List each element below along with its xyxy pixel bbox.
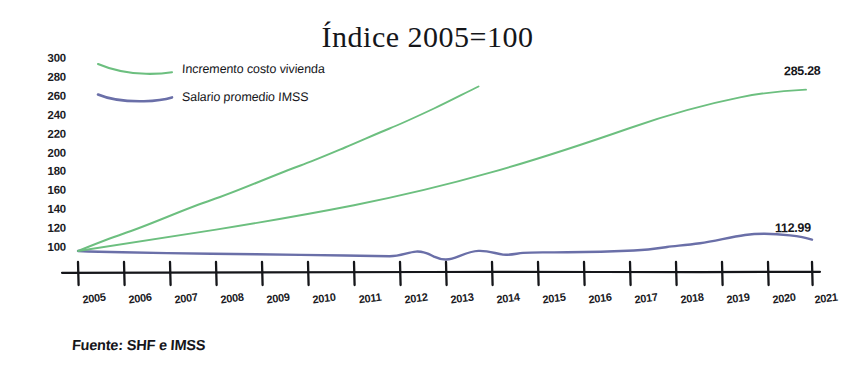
x-axis-tick-label: 2015 <box>542 291 567 306</box>
x-axis-tick-label: 2019 <box>726 291 751 306</box>
source-note: Fuente: SHF e IMSS <box>71 337 205 353</box>
x-axis-tick-label: 2021 <box>814 291 839 306</box>
x-axis-line <box>62 272 820 273</box>
x-axis-tick-label: 2011 <box>358 291 382 306</box>
x-axis-tick-label: 2007 <box>174 291 199 306</box>
series-line-incremento-costo-vivienda <box>78 87 479 252</box>
x-axis-tick-label: 2008 <box>220 291 245 306</box>
data-label-green-endpoint: 285.28 <box>784 64 821 79</box>
x-axis-tick-label: 2018 <box>680 291 705 306</box>
x-axis-tick-label: 2014 <box>496 291 521 306</box>
x-axis-tick-label: 2009 <box>266 291 291 306</box>
x-axis-tick-label: 2017 <box>634 291 659 306</box>
x-axis-tick-label: 2012 <box>404 291 429 306</box>
x-axis-tick-label: 2016 <box>588 291 613 306</box>
x-axis-tick-label: 2013 <box>450 291 475 306</box>
data-label-blue-endpoint: 112.99 <box>775 221 811 236</box>
x-axis-tick-label: 2010 <box>312 291 337 306</box>
x-axis-tick-label: 2005 <box>82 291 107 306</box>
x-axis-labels: 2005 2006 2007 2008 2009 2010 2011 2012 … <box>0 292 855 322</box>
x-axis-tick-label: 2020 <box>772 291 797 306</box>
x-axis-tick-label: 2006 <box>128 291 153 306</box>
chart-container: Índice 2005=100 300 280 260 240 220 200 … <box>0 0 855 376</box>
series-line-salario-promedio-imss <box>78 234 812 260</box>
